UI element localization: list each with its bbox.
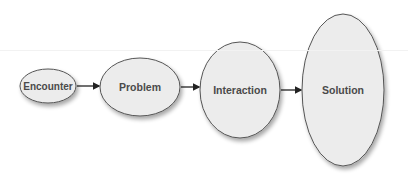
flow-diagram: EncounterProblemInteractionSolution — [0, 0, 408, 180]
node-problem: Problem — [100, 58, 180, 116]
node-encounter: Encounter — [20, 69, 76, 103]
node-label: Interaction — [213, 84, 267, 96]
node-solution: Solution — [302, 14, 384, 166]
diagram-canvas: EncounterProblemInteractionSolution — [0, 0, 408, 180]
node-interaction: Interaction — [200, 42, 280, 138]
node-label: Problem — [119, 81, 161, 93]
node-label: Solution — [322, 84, 364, 96]
background-rule — [0, 50, 408, 51]
node-label: Encounter — [23, 81, 73, 92]
